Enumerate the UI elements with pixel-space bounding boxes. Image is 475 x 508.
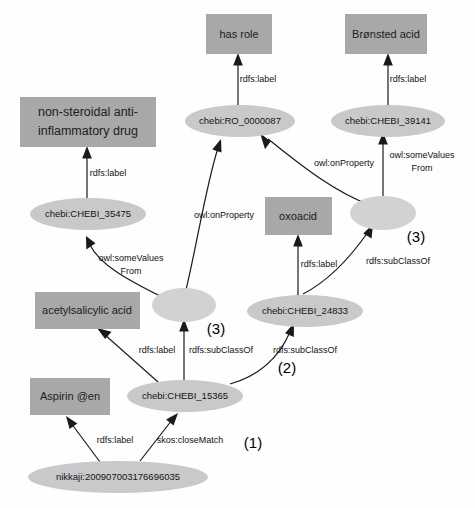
edge-label-owl-somevaluesfrom-right-line1: owl:someValues — [390, 150, 455, 160]
edge-blankright-ro-onproperty — [260, 133, 370, 205]
node-ellipse-chebi-35475-label: chebi:CHEBI_35475 — [45, 208, 131, 219]
edge-label-owl-somevaluesfrom-left-line2: From — [121, 266, 142, 276]
edge-label-rdfs-label-aspirin: rdfs:label — [97, 435, 134, 445]
node-ellipse-ro-0000087-label: chebi:RO_0000087 — [199, 115, 281, 126]
annotation-1: (1) — [244, 434, 262, 451]
node-blank-left[interactable] — [152, 288, 216, 322]
node-rect-nsaid[interactable]: non-steroidal anti- inflammatory drug — [20, 97, 156, 147]
graph-canvas: chebi:CHEBI_39141 : owl:someValuesFrom (… — [0, 0, 475, 508]
edge-label-rdfs-subclassof-blankleft: rdfs:subClassOf — [189, 345, 254, 355]
edge-15365-blankleft-subclassof — [179, 319, 189, 381]
annotation-3-left: (3) — [207, 320, 225, 337]
edge-label-rdfs-label-nsaid: rdfs:label — [90, 168, 127, 178]
node-rect-bronsted-acid-label: Brønsted acid — [352, 28, 420, 40]
node-ellipse-nikkaji[interactable]: nikkaji:200907003176696035 — [28, 461, 208, 493]
node-rect-acetylsalicylic-acid-label: acetylsalicylic acid — [42, 304, 132, 316]
edge-label-owl-somevaluesfrom-left-line1: owl:someValues — [99, 253, 164, 263]
node-ellipse-chebi-39141[interactable]: chebi:CHEBI_39141 — [331, 105, 445, 137]
node-rect-oxoacid-label: oxoacid — [279, 210, 317, 222]
edge-label-owl-somevaluesfrom-right-line2: From — [412, 163, 433, 173]
node-ellipse-chebi-39141-label: chebi:CHEBI_39141 — [345, 115, 431, 126]
edge-nikkaji-aspirin-label — [66, 416, 100, 462]
node-rect-aspirin-en-label: Aspirin @en — [40, 390, 100, 402]
rdf-graph-diagram: chebi:CHEBI_39141 : owl:someValuesFrom (… — [0, 0, 475, 508]
edge-label-rdfs-label-hasrole: rdfs:label — [240, 74, 277, 84]
node-ellipse-chebi-15365[interactable]: chebi:CHEBI_15365 — [127, 380, 243, 412]
edge-label-owl-onproperty-right: owl:onProperty — [314, 158, 375, 168]
edge-label-rdfs-subclassof-24833: rdfs:subClassOf — [273, 345, 338, 355]
edge-label-rdfs-label-bronsted: rdfs:label — [390, 74, 427, 84]
node-rect-bronsted-acid[interactable]: Brønsted acid — [345, 14, 427, 54]
edge-label-rdfs-subclassof-blankright: rdfs:subClassOf — [366, 256, 431, 266]
node-blank-right[interactable] — [350, 196, 416, 230]
edge-label-owl-onproperty-left: owl:onProperty — [194, 210, 255, 220]
node-rect-has-role[interactable]: has role — [206, 14, 272, 54]
annotation-2: (2) — [278, 359, 296, 376]
node-ellipse-chebi-35475[interactable]: chebi:CHEBI_35475 — [30, 198, 146, 230]
node-ellipse-nikkaji-label: nikkaji:200907003176696035 — [56, 471, 180, 482]
node-rect-oxoacid[interactable]: oxoacid — [265, 197, 332, 235]
node-ellipse-ro-0000087[interactable]: chebi:RO_0000087 — [185, 105, 295, 137]
node-rect-nsaid-label-line1: non-steroidal anti- — [38, 105, 138, 119]
annotation-3-right: (3) — [407, 228, 425, 245]
node-ellipse-chebi-15365-label: chebi:CHEBI_15365 — [142, 390, 228, 401]
node-rect-acetylsalicylic-acid[interactable]: acetylsalicylic acid — [35, 292, 140, 329]
edge-label-skos-closematch: skos:closeMatch — [157, 435, 224, 445]
node-ellipse-chebi-24833[interactable]: chebi:CHEBI_24833 — [247, 295, 363, 327]
edge-label-rdfs-label-oxoacid: rdfs:label — [301, 259, 338, 269]
node-rect-nsaid-label-line2: inflammatory drug — [38, 124, 138, 138]
edge-label-rdfs-label-acetylsalicylic: rdfs:label — [139, 345, 176, 355]
node-rect-aspirin-en[interactable]: Aspirin @en — [30, 378, 110, 415]
node-rect-has-role-label: has role — [219, 28, 258, 40]
node-ellipse-chebi-24833-label: chebi:CHEBI_24833 — [262, 305, 348, 316]
edge-blankright-39141-somevaluesfrom — [378, 132, 388, 204]
